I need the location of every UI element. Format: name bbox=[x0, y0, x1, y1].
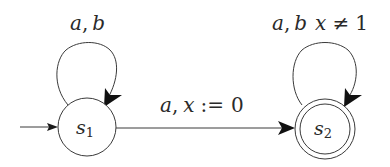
transition-s1-s2-label: a,x:=0 bbox=[160, 93, 244, 117]
state-s1-subscript: 1 bbox=[86, 125, 94, 140]
initial-arrow bbox=[20, 123, 58, 131]
s1-self-loop bbox=[57, 43, 122, 108]
s2-loop-label: a,bx≠1 bbox=[272, 11, 368, 35]
s2-self-loop bbox=[293, 43, 362, 108]
state-s1-name: s bbox=[76, 116, 86, 138]
state-s2[interactable]: s2 bbox=[295, 99, 355, 159]
automaton-diagram: s1 a,b a,x:=0 s2 a,bx≠1 bbox=[0, 0, 390, 167]
state-s1[interactable]: s1 bbox=[58, 98, 116, 156]
transition-s1-s2 bbox=[116, 121, 295, 135]
s1-loop-label: a,b bbox=[70, 11, 105, 35]
state-s2-subscript: 2 bbox=[324, 126, 332, 141]
state-s2-name: s bbox=[314, 117, 324, 139]
